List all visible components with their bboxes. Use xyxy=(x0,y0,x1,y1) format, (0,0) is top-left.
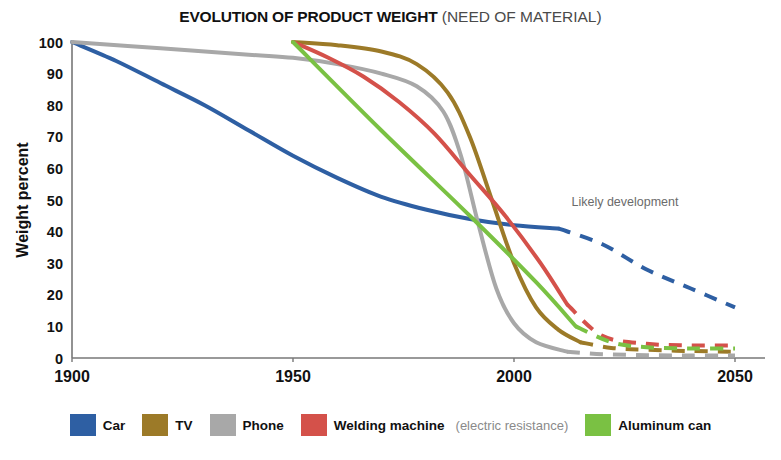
annotations-layer: Likely development xyxy=(571,195,679,209)
legend-item-car[interactable]: Car xyxy=(70,414,126,436)
legend-label-welding-machine: Welding machine xyxy=(334,418,445,433)
x-axis-tick-label: 2050 xyxy=(717,368,753,385)
y-axis-tick-label: 70 xyxy=(47,129,63,145)
legend-swatch-car xyxy=(70,414,96,436)
y-axis-tick-label: 30 xyxy=(47,256,63,272)
legend-item-aluminum-can[interactable]: Aluminum can xyxy=(585,414,711,436)
series-projection-car xyxy=(558,228,735,307)
legend-swatch-welding-machine xyxy=(301,414,327,436)
y-axis-tick-label: 10 xyxy=(47,319,63,335)
legend-swatch-phone xyxy=(210,414,236,436)
y-axis-tick-label: 60 xyxy=(47,161,63,177)
series-projection-phone xyxy=(567,352,735,356)
legend-item-phone[interactable]: Phone xyxy=(210,414,284,436)
line-chart-svg: 01020304050607080901001900195020002050We… xyxy=(0,0,781,460)
y-axis-tick-label: 100 xyxy=(39,35,63,51)
chart-page: EVOLUTION OF PRODUCT WEIGHT (NEED OF MAT… xyxy=(0,0,781,460)
legend-label-phone: Phone xyxy=(243,418,284,433)
y-axis-tick-label: 20 xyxy=(47,287,63,303)
y-axis-tick-label: 90 xyxy=(47,66,63,82)
x-axis-tick-label: 2000 xyxy=(496,368,532,385)
y-axis-tick-label: 0 xyxy=(55,351,63,367)
legend-swatch-tv xyxy=(142,414,168,436)
x-axis-tick-label: 1950 xyxy=(275,368,311,385)
series-projection-welding-machine xyxy=(567,304,735,345)
axes-layer: 01020304050607080901001900195020002050We… xyxy=(14,35,765,386)
legend-item-welding-machine[interactable]: Welding machine(electric resistance) xyxy=(301,414,568,436)
legend-note-welding-machine: (electric resistance) xyxy=(456,418,569,433)
legend-label-car: Car xyxy=(103,418,126,433)
series-line-car xyxy=(72,42,558,228)
y-axis-tick-label: 80 xyxy=(47,98,63,114)
y-axis-title: Weight percent xyxy=(14,142,31,258)
chart-legend: CarTVPhoneWelding machine(electric resis… xyxy=(0,408,781,442)
legend-label-tv: TV xyxy=(175,418,192,433)
chart-annotation: Likely development xyxy=(571,195,679,209)
y-axis-tick-label: 40 xyxy=(47,224,63,240)
legend-label-aluminum-can: Aluminum can xyxy=(618,418,711,433)
x-axis-tick-label: 1900 xyxy=(54,368,90,385)
legend-swatch-aluminum-can xyxy=(585,414,611,436)
y-axis-tick-label: 50 xyxy=(47,193,63,209)
series-line-aluminum-can xyxy=(293,42,576,326)
legend-item-tv[interactable]: TV xyxy=(142,414,192,436)
